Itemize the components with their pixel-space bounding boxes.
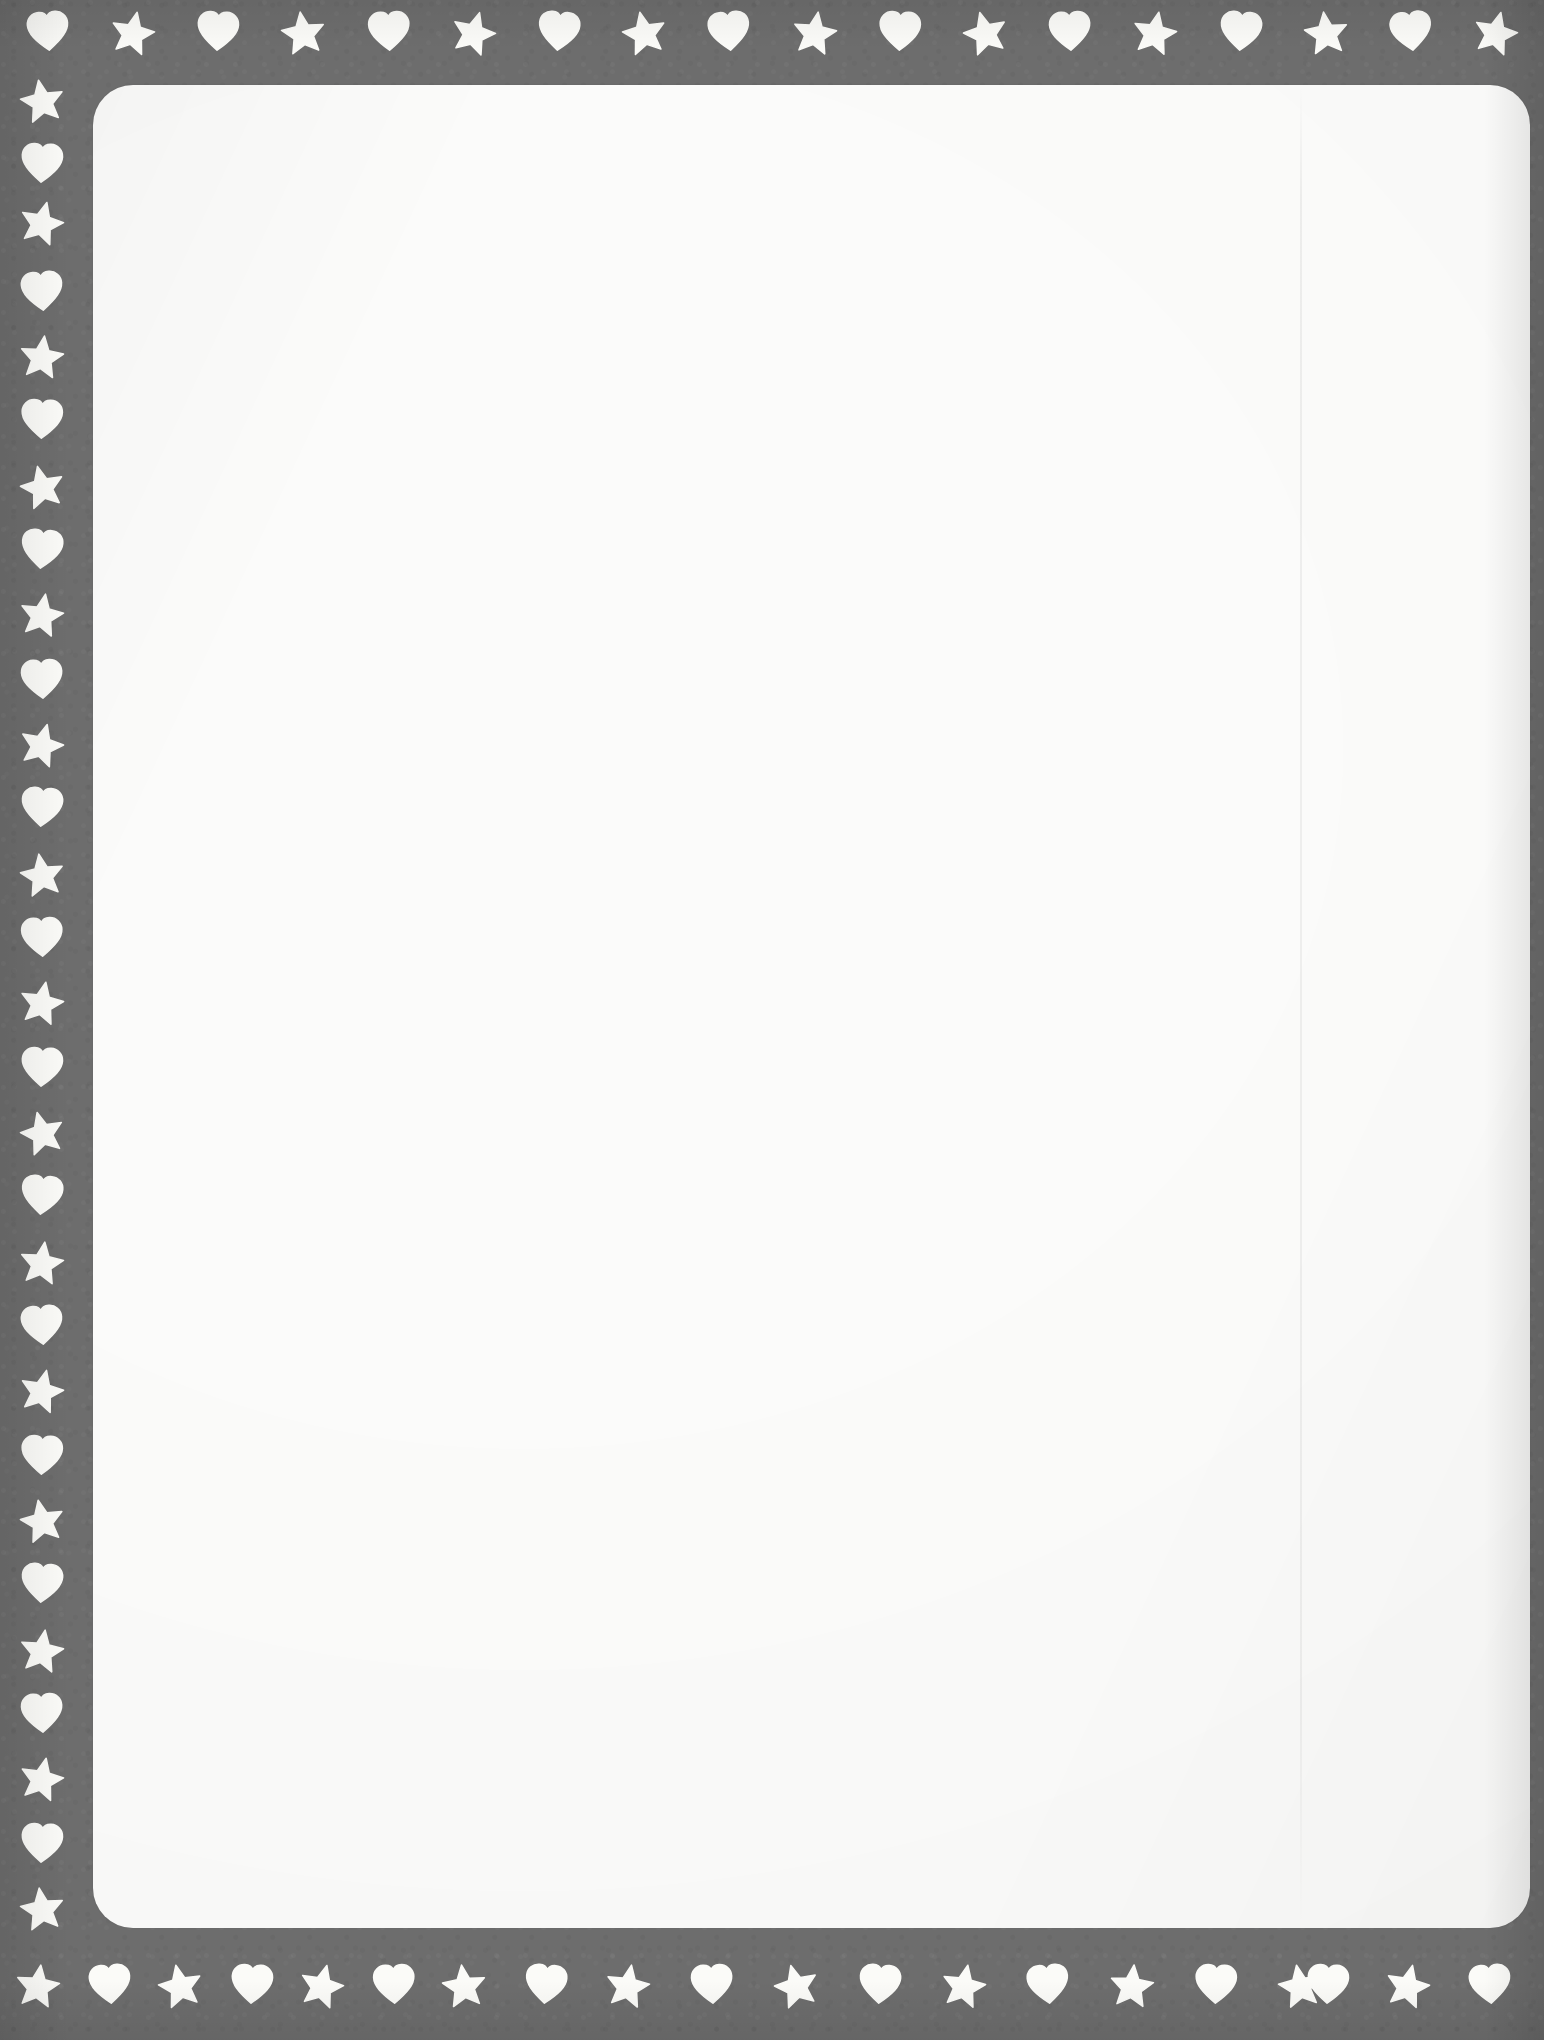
heart-icon xyxy=(1465,1960,1514,2009)
heart-icon xyxy=(365,8,413,56)
star-icon xyxy=(15,587,68,640)
star-icon xyxy=(277,6,329,58)
heart-icon xyxy=(194,8,242,56)
star-icon xyxy=(1300,6,1351,57)
heart-icon xyxy=(18,1690,66,1738)
heart-icon xyxy=(228,1961,276,2009)
star-icon xyxy=(106,5,161,60)
heart-icon xyxy=(1046,8,1094,56)
star-icon xyxy=(16,1882,68,1934)
star-icon xyxy=(15,975,69,1029)
star-icon xyxy=(12,1959,64,2011)
heart-icon xyxy=(370,1961,418,2009)
heart-icon xyxy=(18,1044,66,1092)
star-icon xyxy=(617,5,672,60)
heart-icon xyxy=(855,1960,904,2009)
star-icon xyxy=(1380,1957,1435,2012)
heart-icon xyxy=(18,140,66,188)
heart-icon xyxy=(876,8,924,56)
star-icon xyxy=(294,1957,350,2013)
heart-icon xyxy=(17,783,66,832)
star-icon xyxy=(789,6,842,59)
heart-icon xyxy=(17,267,66,316)
heart-icon xyxy=(18,396,66,444)
heart-icon xyxy=(18,1820,66,1868)
star-icon xyxy=(937,1958,991,2012)
star-icon xyxy=(1468,4,1524,60)
heart-icon xyxy=(1192,1961,1240,2009)
heart-icon xyxy=(17,1301,66,1350)
heart-icon xyxy=(521,1960,571,2010)
star-icon xyxy=(153,1958,208,2013)
star-icon xyxy=(438,1959,489,2010)
star-icon xyxy=(957,4,1013,60)
star-icon xyxy=(16,848,69,901)
star-icon xyxy=(16,1236,68,1288)
writing-area[interactable] xyxy=(93,85,1530,1928)
star-icon xyxy=(14,1104,70,1160)
heart-icon xyxy=(1023,1960,1073,2010)
star-icon xyxy=(1128,5,1182,59)
star-icon xyxy=(768,1957,824,2013)
star-icon xyxy=(16,1624,69,1677)
heart-icon xyxy=(23,7,72,56)
star-icon xyxy=(14,458,69,513)
star-icon xyxy=(14,1362,69,1417)
heart-icon xyxy=(18,914,66,962)
heart-icon xyxy=(688,1961,736,2009)
heart-icon xyxy=(534,7,584,57)
star-icon xyxy=(15,1493,69,1547)
star-icon xyxy=(601,1958,654,2011)
star-icon xyxy=(1107,1960,1158,2011)
heart-icon xyxy=(18,1432,66,1480)
heart-icon xyxy=(17,1559,66,1608)
heart-icon xyxy=(1216,7,1265,56)
star-icon xyxy=(15,1751,70,1806)
star-icon xyxy=(15,73,68,126)
stationery-page xyxy=(0,0,1544,2040)
heart-icon xyxy=(17,525,67,575)
star-icon xyxy=(16,330,67,381)
star-icon xyxy=(14,194,70,250)
star-icon xyxy=(1273,1958,1326,2011)
heart-icon xyxy=(85,1960,134,2009)
star-icon xyxy=(446,4,503,61)
star-icon xyxy=(14,716,70,772)
heart-icon xyxy=(704,7,754,57)
writing-area-sheen xyxy=(93,85,1530,1928)
heart-icon xyxy=(18,656,66,704)
heart-icon xyxy=(1304,1961,1352,2009)
heart-icon xyxy=(1386,7,1437,58)
heart-icon xyxy=(17,1171,67,1221)
